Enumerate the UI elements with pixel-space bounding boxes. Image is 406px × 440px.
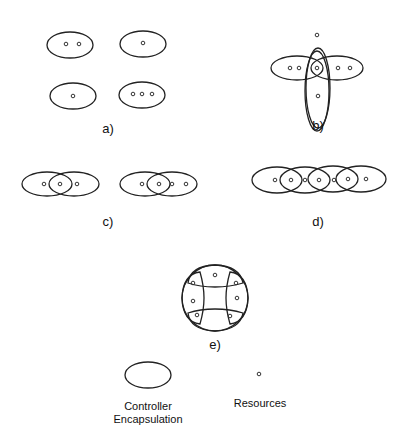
encapsulation: [336, 166, 386, 192]
resource-icon: [315, 33, 319, 37]
encapsulation: [182, 272, 204, 324]
resource-icon: [58, 182, 62, 186]
encapsulation: [147, 172, 197, 196]
encapsulation: [120, 31, 166, 57]
resource-icon: [235, 296, 239, 300]
encapsulation: [22, 172, 72, 196]
resource-icon: [150, 92, 154, 96]
resource-icon: [213, 273, 217, 277]
resource-icon: [170, 182, 174, 186]
resource-icon: [346, 177, 350, 181]
resource-icon: [140, 182, 144, 186]
resource-icon: [157, 182, 161, 186]
resource-icon: [42, 182, 46, 186]
panel-e: e): [182, 265, 248, 352]
panel-label-d: d): [312, 214, 324, 229]
resource-icon: [228, 314, 232, 318]
resource-icon: [71, 94, 75, 98]
encapsulation: [50, 83, 96, 109]
resource-icon: [348, 66, 352, 70]
resource-icon: [364, 177, 368, 181]
encapsulation: [49, 172, 99, 196]
resource-icon: [297, 66, 301, 70]
resource-icon: [303, 178, 307, 182]
encapsulation: [226, 272, 248, 324]
encapsulation: [188, 309, 243, 331]
legend: Controller Encapsulation Resources: [113, 362, 286, 425]
resource-icon: [289, 178, 293, 182]
resource-legend-icon: [257, 372, 261, 376]
resource-icon: [273, 178, 277, 182]
encapsulation-legend-icon: [125, 362, 171, 388]
panel-c: c): [22, 172, 197, 229]
legend-resources: Resources: [234, 397, 287, 409]
encapsulation: [120, 172, 170, 196]
resource-icon: [64, 42, 68, 46]
legend-encapsulation-line1: Controller: [124, 400, 172, 412]
panel-a: a): [47, 31, 166, 136]
encapsulation: [47, 32, 93, 58]
resource-icon: [195, 313, 199, 317]
resource-icon: [77, 42, 81, 46]
panel-d: d): [252, 166, 386, 229]
resource-icon: [288, 66, 292, 70]
panel-label-b: b): [312, 118, 324, 133]
resource-icon: [75, 182, 79, 186]
resource-icon: [316, 94, 320, 98]
resource-icon: [141, 41, 145, 45]
panel-label-e: e): [209, 337, 221, 352]
panel-b: b): [271, 33, 363, 133]
resource-icon: [184, 182, 188, 186]
resource-icon: [336, 66, 340, 70]
encapsulation: [119, 82, 165, 108]
diagram-canvas: a) b) c): [0, 0, 406, 440]
resource-icon: [131, 92, 135, 96]
legend-encapsulation-line2: Encapsulation: [113, 413, 182, 425]
panel-label-c: c): [103, 214, 114, 229]
resource-icon: [317, 178, 321, 182]
resource-icon: [140, 92, 144, 96]
encapsulation: [280, 167, 330, 193]
resource-icon: [191, 299, 195, 303]
resource-icon: [332, 178, 336, 182]
resource-icon: [315, 66, 319, 70]
panel-label-a: a): [102, 121, 114, 136]
